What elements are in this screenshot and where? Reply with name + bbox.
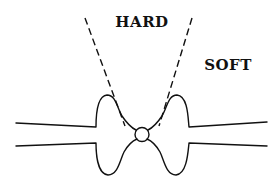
hard-soft-diagram: HARD SOFT	[0, 0, 277, 185]
central-vertex-circle	[135, 128, 149, 142]
upper-tube-outline	[16, 95, 267, 130]
soft-label: SOFT	[204, 56, 252, 74]
lower-tube-outline	[16, 139, 267, 175]
hard-label: HARD	[115, 13, 168, 31]
